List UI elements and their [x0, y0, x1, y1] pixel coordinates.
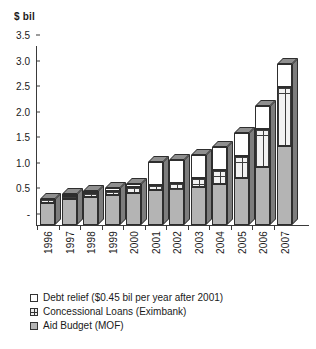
x-tick-1999: [102, 226, 103, 230]
legend-item-loan: Concessional Loans (Eximbank): [30, 306, 280, 318]
x-label-2000: 2000: [129, 231, 140, 254]
chart-legend: Debt relief ($0.45 bil per year after 20…: [30, 292, 280, 334]
x-label-2001: 2001: [151, 231, 162, 254]
bar-segment-loan-1998: [83, 193, 98, 197]
bar-segment-debt-2005: [234, 133, 249, 156]
x-tick-2001: [145, 226, 146, 230]
x-tick-2003: [188, 226, 189, 230]
y-tick-1.0: 1.0: [16, 157, 36, 168]
bar-segment-debt-2002: [169, 160, 184, 183]
bar-segment-aid-1997: [62, 199, 77, 225]
legend-label-loan: Concessional Loans (Eximbank): [43, 306, 186, 318]
legend-swatch-debt-icon: [30, 294, 38, 302]
bar-side-face-1998: [98, 185, 104, 225]
x-label-2006: 2006: [258, 231, 269, 254]
bar-segment-loan-2005: [234, 156, 249, 178]
x-label-2007: 2007: [280, 231, 291, 254]
bar-side-face-2002: [184, 154, 190, 225]
bar-segment-aid-2000: [126, 193, 141, 225]
bar-segment-debt-1998: [83, 191, 98, 193]
x-label-1997: 1997: [65, 231, 76, 254]
bar-side-face-2000: [141, 178, 147, 225]
bar-segment-aid-2002: [169, 189, 184, 225]
x-label-1996: 1996: [43, 231, 54, 254]
x-label-2005: 2005: [237, 231, 248, 254]
bar-side-face-2005: [249, 127, 255, 225]
x-label-1999: 1999: [108, 231, 119, 254]
bar-side-face-2001: [163, 156, 169, 225]
x-tick-2006: [252, 226, 253, 230]
y-tick-2.0: 2.0: [16, 106, 36, 117]
x-label-2003: 2003: [194, 231, 205, 254]
plot-area: -0.51.01.52.02.53.03.5: [36, 46, 308, 225]
bar-segment-loan-2007: [277, 87, 292, 146]
legend-swatch-loan-icon: [30, 308, 38, 316]
bar-segment-debt-2001: [148, 162, 163, 185]
y-axis-unit-label: $ bil: [14, 11, 35, 22]
bar-segment-debt-1997: [62, 194, 77, 196]
bar-segment-debt-2004: [212, 147, 227, 170]
bar-segment-loan-2003: [191, 178, 206, 187]
bar-segment-loan-1999: [105, 191, 120, 196]
y-tick-0.5: 0.5: [16, 183, 36, 194]
bar-side-face-1997: [77, 188, 83, 225]
x-tick-2000: [123, 226, 124, 230]
bar-segment-aid-1996: [40, 203, 55, 226]
legend-label-debt: Debt relief ($0.45 bil per year after 20…: [43, 292, 223, 304]
bar-segment-aid-2004: [212, 184, 227, 225]
y-tick-2.5: 2.5: [16, 81, 36, 92]
legend-item-aid: Aid Budget (MOF): [30, 320, 280, 332]
bar-segment-loan-2002: [169, 183, 184, 190]
bar-side-face-2003: [206, 149, 212, 225]
bar-segment-loan-1996: [40, 199, 55, 202]
bar-segment-loan-2000: [126, 187, 141, 193]
x-tick-1996: [37, 226, 38, 230]
x-label-1998: 1998: [86, 231, 97, 254]
bar-segment-aid-2006: [255, 167, 270, 225]
y-tick-1.5: 1.5: [16, 132, 36, 143]
bar-segment-debt-2000: [126, 184, 141, 187]
bar-side-face-2006: [270, 100, 276, 225]
bar-segment-debt-2006: [255, 106, 270, 129]
bar-segment-loan-2001: [148, 185, 163, 191]
chart-container: $ bil -0.51.01.52.02.53.03.5 19961997199…: [0, 0, 316, 349]
bar-segment-loan-2004: [212, 170, 227, 184]
bar-segment-loan-2006: [255, 129, 270, 167]
bar-segment-loan-1997: [62, 196, 77, 200]
x-tick-2002: [166, 226, 167, 230]
x-label-2002: 2002: [172, 231, 183, 254]
legend-swatch-aid-icon: [30, 322, 38, 330]
x-tick-1998: [80, 226, 81, 230]
legend-item-debt: Debt relief ($0.45 bil per year after 20…: [30, 292, 280, 304]
bar-side-face-2004: [227, 141, 233, 225]
bar-side-face-1999: [120, 182, 126, 225]
x-label-2004: 2004: [215, 231, 226, 254]
bar-segment-aid-2001: [148, 190, 163, 225]
y-tick--: -: [27, 209, 36, 220]
y-tick-3.5: 3.5: [16, 30, 36, 41]
x-axis-line: [36, 225, 309, 226]
bar-side-face-1996: [55, 193, 61, 225]
legend-label-aid: Aid Budget (MOF): [43, 320, 124, 332]
bar-segment-aid-2003: [191, 187, 206, 225]
y-tick-3.0: 3.0: [16, 55, 36, 66]
bar-segment-aid-2007: [277, 146, 292, 225]
bar-segment-debt-1999: [105, 188, 120, 191]
bar-side-face-2007: [292, 58, 298, 225]
bar-segment-aid-1999: [105, 195, 120, 225]
bar-segment-aid-1998: [83, 197, 98, 225]
x-tick-2007: [274, 226, 275, 230]
bar-segment-debt-2007: [277, 64, 292, 87]
x-tick-1997: [59, 226, 60, 230]
x-tick-2004: [209, 226, 210, 230]
x-tick-2005: [231, 226, 232, 230]
bar-segment-debt-2003: [191, 155, 206, 178]
bar-segment-aid-2005: [234, 178, 249, 225]
